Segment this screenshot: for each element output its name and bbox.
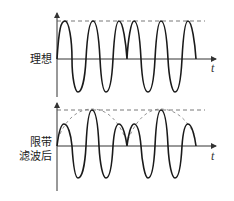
filtered-label-line1: 限带: [14, 136, 52, 149]
ideal-label: 理想: [14, 53, 52, 66]
filtered-plot: [57, 103, 216, 191]
filtered-envelope-dashed-arc-2: [128, 109, 194, 140]
filtered-waveform: [57, 110, 196, 178]
ideal-t-label: t: [211, 61, 214, 76]
filtered-t-label: t: [211, 149, 214, 164]
filtered-label-line2: 滤波后: [8, 150, 52, 163]
ideal-plot: [57, 13, 216, 97]
ideal-waveform: [57, 21, 196, 92]
diagram-canvas: [0, 0, 234, 201]
